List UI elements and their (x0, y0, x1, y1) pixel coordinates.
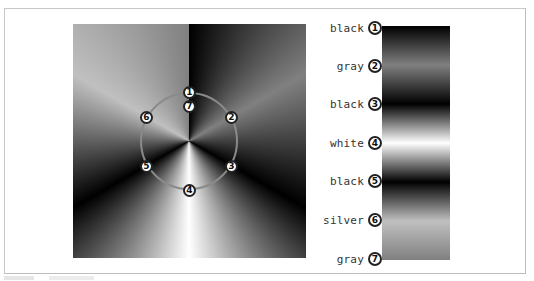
stop-label: white (330, 137, 364, 150)
stop-row-6: silver 6 (300, 212, 382, 228)
stop-label: black (330, 22, 364, 35)
stop-badge-6: 6 (368, 213, 382, 227)
stop-badge-3: 3 (368, 97, 382, 111)
linear-gradient-strip (382, 26, 450, 260)
stop-label: gray (337, 253, 364, 266)
stop-row-1: black 1 (300, 20, 382, 36)
stop-badge-4: 4 (368, 136, 382, 150)
ring-badge-1: 1 (183, 86, 196, 99)
ring-badge-4: 4 (183, 184, 196, 197)
stop-badge-2: 2 (368, 59, 382, 73)
stop-label: silver (323, 214, 364, 227)
stop-row-5: black 5 (300, 173, 382, 189)
ring-badge-3: 3 (225, 160, 238, 173)
ring-badge-2: 2 (225, 111, 238, 124)
stop-row-2: gray 2 (300, 58, 382, 74)
stop-row-4: white 4 (300, 135, 382, 151)
ring-badge-7: 7 (183, 100, 196, 113)
stop-badge-7: 7 (368, 252, 382, 266)
stop-badge-1: 1 (368, 21, 382, 35)
ring-badge-5: 5 (140, 160, 153, 173)
stop-label: black (330, 98, 364, 111)
cropped-caption (4, 276, 94, 280)
stop-label: gray (337, 60, 364, 73)
stop-row-7: gray 7 (300, 251, 382, 267)
stop-badge-5: 5 (368, 174, 382, 188)
stop-label: black (330, 175, 364, 188)
stop-row-3: black 3 (300, 96, 382, 112)
ring-badge-6: 6 (140, 111, 153, 124)
